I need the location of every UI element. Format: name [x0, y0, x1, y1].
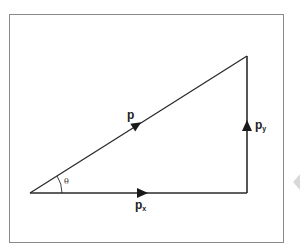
angle-theta-label: θ: [64, 178, 69, 186]
vector-p-label: p: [127, 109, 134, 121]
arrowhead-px-icon: [137, 188, 148, 198]
angle-theta-arc: [57, 176, 62, 193]
vector-py-label: py: [255, 119, 266, 132]
vector-px-label: px: [135, 199, 146, 212]
arrowhead-py-icon: [242, 120, 252, 131]
edge-scroll-tab-icon: [293, 173, 300, 191]
